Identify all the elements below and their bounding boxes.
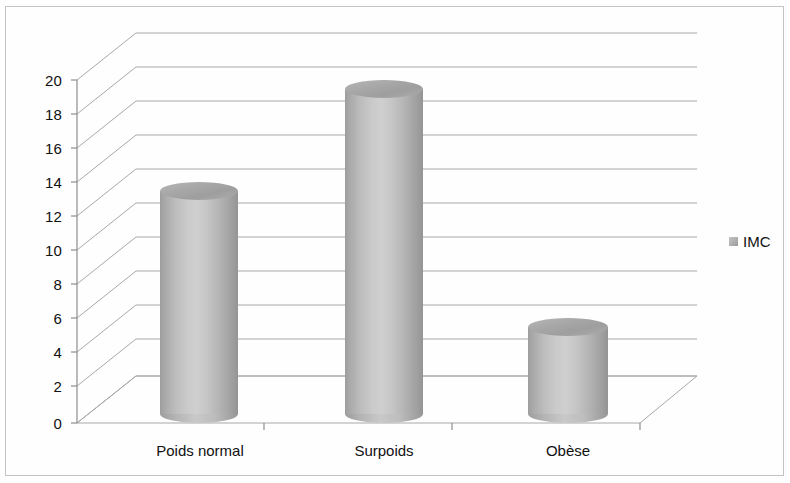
legend-swatch-imc <box>729 237 738 246</box>
y-tick-label: 10 <box>18 243 62 258</box>
y-tick-label: 20 <box>18 73 62 88</box>
chart-border <box>5 6 784 476</box>
y-tick-label: 6 <box>18 311 62 326</box>
y-tick-label: 4 <box>18 345 62 360</box>
x-axis-label-obese: Obèse <box>478 443 658 458</box>
y-tick-label: 0 <box>18 416 62 431</box>
y-tick-label: 14 <box>18 175 62 190</box>
y-tick-label: 2 <box>18 379 62 394</box>
y-tick-label: 12 <box>18 209 62 224</box>
legend: IMC <box>729 234 771 249</box>
x-axis-label-poids-normal: Poids normal <box>110 443 290 458</box>
y-tick-label: 8 <box>18 277 62 292</box>
y-tick-label: 16 <box>18 141 62 156</box>
x-axis-label-surpoids: Surpoids <box>294 443 474 458</box>
chart-canvas: 20 18 16 14 12 10 8 6 4 2 0 Poids normal… <box>0 0 790 483</box>
legend-label-imc: IMC <box>743 234 771 249</box>
y-tick-label: 18 <box>18 107 62 122</box>
